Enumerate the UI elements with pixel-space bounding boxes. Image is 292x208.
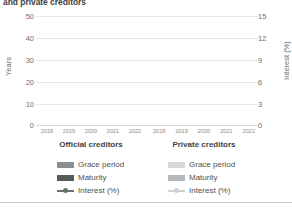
legend-item-private-grace-period[interactable]: Grace period [168,158,235,171]
y-tick-right-12: 12 [258,35,280,43]
legend-item-official-grace-period[interactable]: Grace period [57,158,124,171]
y-tick-right-9: 9 [258,57,280,65]
chart-title: and private creditors [3,0,86,7]
chart-figure: and private creditors Years Interest (%)… [0,0,292,208]
x-ticks-private: 2018 2019 2020 2021 2022 [148,128,260,138]
legend-label-official-interest: Interest (%) [78,187,119,195]
x-tick-private-2022: 2022 [238,128,260,138]
panel-label-official: Official creditors [36,140,146,149]
x-tick-official-2019: 2019 [58,128,80,138]
x-tick-official-2021: 2021 [102,128,124,138]
panel-label-private: Private creditors [148,140,260,149]
y-tick-right-3: 3 [258,101,280,109]
series-group-official [36,16,144,126]
y-tick-left-50: 50 [12,13,34,21]
legend-label-private-grace: Grace period [189,161,235,169]
legend-label-private-interest: Interest (%) [189,187,230,195]
y-axis-title-right: Interest (%) [282,33,291,89]
x-tick-private-2019: 2019 [170,128,192,138]
y-tick-left-40: 40 [12,35,34,43]
y-tick-left-30: 30 [12,57,34,65]
legend-label-official-grace: Grace period [78,161,124,169]
legend-item-official-maturity[interactable]: Maturity [57,171,124,184]
y-tick-right-0: 0 [258,122,280,130]
y-tick-left-20: 20 [12,79,34,87]
y-tick-left-10: 10 [12,101,34,109]
y-tick-right-6: 6 [258,79,280,87]
legend-line-marker-icon-private-interest [168,187,185,194]
x-ticks-official: 2018 2019 2020 2021 2022 [36,128,146,138]
legend-swatch-icon-private-grace [168,162,185,168]
legend-official: Grace period Maturity Interest (%) [57,158,124,197]
x-tick-official-2020: 2020 [80,128,102,138]
legend-private: Grace period Maturity Interest (%) [168,158,235,197]
panel-private-creditors: 2018 2019 2020 2021 2022 Private credito… [148,128,260,154]
legend-item-private-interest[interactable]: Interest (%) [168,184,235,197]
bottom-divider [0,202,292,203]
legend-label-official-maturity: Maturity [78,174,106,182]
legend-swatch-icon-official-maturity [57,175,74,181]
y-tick-left-0: 0 [12,122,34,130]
panel-official-creditors: 2018 2019 2020 2021 2022 Official credit… [36,128,146,154]
legend-item-official-interest[interactable]: Interest (%) [57,184,124,197]
x-tick-official-2018: 2018 [36,128,58,138]
x-tick-official-2022: 2022 [124,128,146,138]
plot-area [36,16,258,126]
x-tick-private-2021: 2021 [215,128,237,138]
legend-label-private-maturity: Maturity [189,174,217,182]
x-tick-private-2018: 2018 [148,128,170,138]
legend-swatch-icon-official-grace [57,162,74,168]
legend-line-marker-icon-official-interest [57,187,74,194]
x-tick-private-2020: 2020 [193,128,215,138]
legend-swatch-icon-private-maturity [168,175,185,181]
y-tick-right-15: 15 [258,13,280,21]
series-group-private [150,16,258,126]
legend-item-private-maturity[interactable]: Maturity [168,171,235,184]
